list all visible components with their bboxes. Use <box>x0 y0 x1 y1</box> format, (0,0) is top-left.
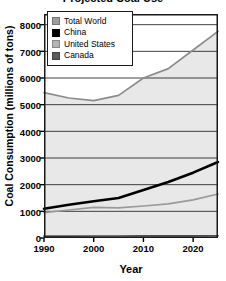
legend-label-total-world: Total World <box>64 17 106 26</box>
x-axis-label: Year <box>44 263 218 275</box>
legend-label-united-states: United States <box>64 40 115 49</box>
legend-item-total-world: Total World <box>52 16 127 27</box>
y-tick-3000: 3000 <box>1 154 41 164</box>
chart-legend: Total World China United States Canada <box>47 11 133 66</box>
x-tick-2000: 2000 <box>72 243 116 254</box>
legend-label-canada: Canada <box>64 51 94 60</box>
x-tick-2010: 2010 <box>121 243 165 254</box>
y-tick-8000: 8000 <box>1 21 41 31</box>
y-tick-4000: 4000 <box>1 128 41 138</box>
coal-consumption-chart: Projected Coal Use Coal Consumption (mil… <box>0 0 226 281</box>
x-tick-2020: 2020 <box>171 243 215 254</box>
y-axis-tick-labels: 8000 7000 6000 5000 4000 3000 2000 1000 … <box>0 0 41 281</box>
legend-label-china: China <box>64 28 86 37</box>
legend-item-united-states: United States <box>52 39 127 50</box>
y-tick-7000: 7000 <box>1 48 41 58</box>
legend-swatch-total-world <box>52 17 60 25</box>
legend-item-canada: Canada <box>52 50 127 61</box>
legend-swatch-canada <box>52 52 60 60</box>
y-tick-5000: 5000 <box>1 101 41 111</box>
y-tick-6000: 6000 <box>1 74 41 84</box>
legend-swatch-china <box>52 29 60 37</box>
y-tick-2000: 2000 <box>1 181 41 191</box>
legend-item-china: China <box>52 27 127 38</box>
y-tick-1000: 1000 <box>1 208 41 218</box>
legend-swatch-united-states <box>52 40 60 48</box>
x-tick-1990: 1990 <box>22 243 66 254</box>
